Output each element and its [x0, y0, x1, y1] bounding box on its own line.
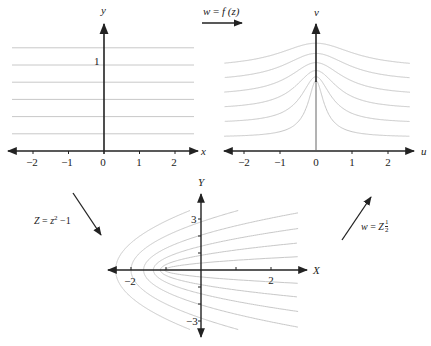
w-plane-u-tick: 0 [313, 157, 319, 168]
exponent-one-half: 12 [385, 219, 389, 234]
z-plane-x-tick: 0 [100, 157, 106, 168]
w-plane-u-tick: −2 [238, 157, 250, 168]
w-plane-v-label: v [314, 7, 319, 18]
w-plane-u-tick: −1 [274, 157, 286, 168]
Z-plane-Y-label: Y [198, 177, 204, 188]
w-plane-image-curves [224, 43, 410, 136]
minus-one: −1 [58, 215, 71, 226]
z-plane-y-label: y [101, 5, 106, 16]
w-symbol: w [361, 221, 368, 232]
mapping-label-square: Z = z2 −1 [34, 215, 71, 226]
Z-symbol: Z [378, 221, 384, 232]
z-plane-x-tick: 2 [171, 157, 177, 168]
z-plane-y-tick-1: 1 [94, 56, 100, 67]
mapping-label-f: w = f (z) [203, 6, 239, 17]
Z-plane-Y-tick-3: 3 [191, 214, 197, 225]
mapping-label-sqrt: w = Z12 [361, 219, 388, 234]
mapping-arrow-square [73, 193, 101, 235]
w-plane-u-tick: 2 [385, 157, 391, 168]
Z-plane-X-tick-neg2: −2 [124, 276, 136, 287]
equals-sign: = [368, 221, 379, 232]
f-of-z: f (z) [222, 5, 239, 17]
diagram-canvas [0, 0, 431, 346]
fraction-denominator: 2 [385, 227, 389, 234]
z-plane-x-label: x [201, 146, 206, 157]
z-plane-x-tick: −1 [61, 157, 73, 168]
equals-sign: = [210, 5, 222, 17]
z-plane-horizontal-lines [12, 48, 194, 134]
Z-plane-X-tick-2: 2 [268, 275, 274, 286]
w-plane-u-label: u [421, 146, 427, 157]
image-curve [225, 53, 410, 77]
z-plane-x-tick: −2 [26, 157, 38, 168]
Z-plane-Y-tick-neg3: −3 [186, 316, 198, 327]
image-curve [225, 77, 410, 122]
w-plane-u-tick: 1 [349, 157, 355, 168]
equals-sign: = [40, 215, 51, 226]
z-plane-x-tick: 1 [136, 157, 142, 168]
Z-plane-X-label: X [313, 265, 320, 276]
